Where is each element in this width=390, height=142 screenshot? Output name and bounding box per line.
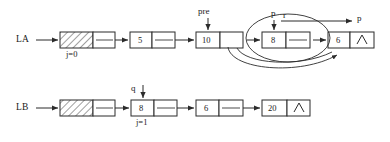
list-label-lb: LB bbox=[16, 103, 29, 113]
p-pointer-inner-label: p bbox=[271, 9, 276, 18]
relink-curve-a bbox=[228, 47, 337, 68]
la-node-5-value: 5 bbox=[138, 36, 142, 45]
linked-list-diagram: LA 5 10 8 6 j=0 pre p r p LB 8 6 20 j=1 … bbox=[0, 0, 390, 142]
la-node-8-value: 8 bbox=[271, 36, 275, 45]
la-node-8 bbox=[262, 32, 310, 48]
la-head-node bbox=[60, 32, 115, 48]
la-node-6-value: 6 bbox=[336, 36, 340, 45]
lb-head-node bbox=[60, 100, 115, 116]
lb-node-6-value: 6 bbox=[204, 104, 208, 113]
q-pointer-label: q bbox=[131, 84, 136, 93]
la-node-6 bbox=[328, 32, 374, 48]
lb-node-8 bbox=[131, 100, 177, 116]
lb-node-8-value: 8 bbox=[139, 104, 143, 113]
la-node-10-value: 10 bbox=[202, 36, 211, 45]
pre-pointer-label: pre bbox=[198, 7, 210, 16]
la-node-5 bbox=[130, 32, 175, 48]
la-index-label: j=0 bbox=[66, 50, 77, 59]
r-pointer-label: r bbox=[283, 11, 286, 20]
diagram-vector-layer bbox=[0, 0, 390, 142]
lb-node-20-value: 20 bbox=[268, 104, 277, 113]
p-pointer-target-label: p bbox=[357, 14, 362, 23]
lb-index-label: j=1 bbox=[136, 118, 147, 127]
list-label-la: LA bbox=[16, 35, 29, 45]
